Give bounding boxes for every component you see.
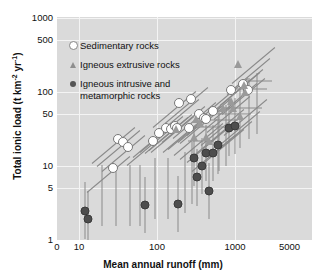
x-axis-tick-label: 10 bbox=[74, 242, 85, 252]
legend-item-extrusive: Igneous extrusive rocks bbox=[66, 59, 180, 71]
y-axis-tick-label: 500 bbox=[37, 35, 53, 45]
error-bar-vertical bbox=[155, 158, 156, 219]
data-point-filled-circle bbox=[173, 199, 182, 208]
data-point-filled-circle bbox=[81, 206, 90, 215]
y-axis-tick-label: 10 bbox=[42, 161, 53, 171]
y-axis-title-exp1: -2 bbox=[11, 74, 18, 80]
data-point-open-circle bbox=[184, 123, 194, 133]
data-point-filled-circle bbox=[231, 121, 240, 130]
data-point-triangle bbox=[172, 125, 180, 133]
error-bar-vertical bbox=[225, 105, 226, 166]
x-axis-title: Mean annual runoff (mm) bbox=[0, 259, 326, 270]
y-axis-title-end: ) bbox=[12, 53, 23, 56]
error-bar-vertical bbox=[139, 165, 140, 226]
x-axis-tick-label: 100 bbox=[149, 242, 165, 252]
error-bar-vertical bbox=[129, 165, 130, 226]
y-axis-title-main: Total ionic load (t km bbox=[12, 81, 23, 180]
data-point-open-circle bbox=[186, 94, 196, 104]
error-bar-vertical bbox=[168, 158, 169, 219]
data-point-triangle bbox=[205, 137, 213, 145]
error-bar-vertical bbox=[102, 165, 103, 226]
data-point-triangle bbox=[241, 88, 249, 96]
data-point-filled-circle bbox=[83, 215, 92, 224]
legend-item-label: Igneous intrusive and metamorphic rocks bbox=[80, 78, 170, 102]
x-axis-tick-label: 0 bbox=[54, 242, 59, 252]
open-circle-icon bbox=[66, 40, 80, 51]
legend-item-label: Sedimentary rocks bbox=[80, 40, 159, 52]
y-axis-title-exp2: -1 bbox=[11, 56, 18, 62]
data-point-filled-circle bbox=[140, 200, 149, 209]
error-bar-vertical bbox=[116, 165, 117, 226]
y-axis-ticks: 1000500100501051 bbox=[0, 0, 53, 278]
data-point-filled-circle bbox=[205, 186, 214, 195]
error-bar-vertical bbox=[185, 152, 186, 213]
data-point-triangle bbox=[236, 112, 244, 120]
data-point-open-circle bbox=[226, 85, 236, 95]
data-point-filled-circle bbox=[198, 162, 207, 171]
y-axis-tick-label: 1000 bbox=[32, 13, 53, 23]
data-point-open-circle bbox=[108, 163, 118, 173]
plot-area: Sedimentary rocksIgneous extrusive rocks… bbox=[57, 17, 312, 240]
legend-item-label: Igneous extrusive rocks bbox=[80, 59, 180, 71]
gridline-horizontal bbox=[57, 18, 312, 19]
y-axis-tick-label: 100 bbox=[37, 87, 53, 97]
legend-item-intrusive: Igneous intrusive and metamorphic rocks bbox=[66, 78, 180, 102]
data-point-triangle bbox=[234, 60, 242, 68]
data-point-triangle bbox=[219, 104, 227, 112]
triangle-icon bbox=[66, 59, 80, 70]
y-axis-tick-label: 50 bbox=[42, 109, 53, 119]
filled-circle-icon bbox=[66, 78, 80, 89]
data-point-triangle bbox=[196, 119, 204, 127]
gridline-horizontal bbox=[57, 114, 312, 115]
data-point-open-circle bbox=[208, 106, 218, 116]
data-point-open-circle bbox=[123, 142, 133, 152]
x-axis-tick-label: 5000 bbox=[279, 242, 300, 252]
error-bar-vertical bbox=[191, 142, 192, 203]
data-point-filled-circle bbox=[214, 141, 223, 150]
legend-item-sedimentary: Sedimentary rocks bbox=[66, 40, 180, 52]
data-point-triangle bbox=[190, 133, 198, 141]
chart-figure: 1000500100501051 Total ionic load (t km-… bbox=[0, 0, 326, 278]
data-point-filled-circle bbox=[190, 153, 199, 162]
data-point-filled-circle bbox=[193, 173, 202, 182]
x-axis-tick-label: 1000 bbox=[224, 242, 245, 252]
y-axis-tick-label: 5 bbox=[48, 183, 53, 193]
error-bar-vertical bbox=[256, 73, 257, 134]
y-axis-title: Total ionic load (t km-2 yr-1) bbox=[11, 6, 23, 226]
y-axis-tick-label: 1 bbox=[48, 235, 53, 245]
data-point-filled-circle bbox=[208, 148, 217, 157]
legend: Sedimentary rocksIgneous extrusive rocks… bbox=[66, 40, 180, 109]
y-axis-title-mid: yr bbox=[12, 62, 23, 74]
